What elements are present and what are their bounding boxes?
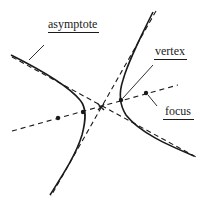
hyperbola-branch-left (11, 55, 85, 195)
vertex-leader-line (123, 65, 153, 98)
focus-leader-line (148, 95, 157, 106)
transverse-axis-line (12, 85, 178, 131)
hyperbola-branch-right (120, 12, 194, 156)
focus-point-left (56, 116, 60, 120)
vertex-label: vertex (154, 45, 187, 60)
focus-point-right (144, 91, 148, 95)
vertex-point-left (81, 110, 85, 114)
focus-label: focus (163, 105, 194, 120)
vertex-point-right (119, 98, 123, 102)
asymptote-label: asymptote (48, 18, 99, 33)
asymptote-leader-line (29, 45, 44, 60)
